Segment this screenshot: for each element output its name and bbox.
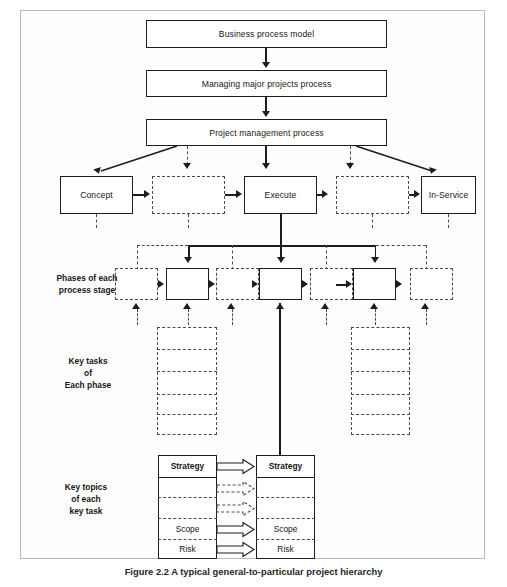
- figure-container: Business process model Managing major pr…: [0, 0, 507, 587]
- figure-caption: Figure 2.2 A typical general-to-particul…: [0, 566, 507, 577]
- row-label-key-topics: Key topics of each key task: [36, 481, 136, 517]
